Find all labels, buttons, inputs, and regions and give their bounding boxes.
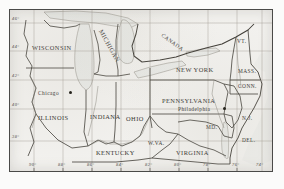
- water-bodies: [44, 11, 273, 166]
- border-vermont-newhampshire: [248, 30, 251, 64]
- atlantic-ocean: [242, 50, 273, 166]
- map-frame-border: 46° 44° 42° 40° 38° 90° 88° 86° 84° 82° …: [9, 9, 273, 172]
- river-ohio: [88, 116, 150, 146]
- border-pennsylvania-newyork: [150, 80, 224, 84]
- border-ohio-pennsylvania: [150, 68, 152, 128]
- border-illinois-indiana: [84, 90, 88, 146]
- border-indiana-ohio: [114, 82, 116, 142]
- map-canvas: 46° 44° 42° 40° 38° 90° 88° 86° 84° 82° …: [10, 10, 272, 171]
- map-vector-layer: [10, 10, 273, 172]
- border-ohio-westvirginia: [132, 116, 150, 142]
- border-virginia-south: [152, 158, 230, 164]
- lake-erie: [134, 61, 186, 78]
- frame-ticks: [34, 168, 237, 172]
- border-kentucky-south: [72, 158, 152, 162]
- map-figure: 46° 44° 42° 40° 38° 90° 88° 86° 84° 82° …: [0, 0, 284, 189]
- river-susquehanna: [212, 80, 224, 128]
- coast-michigan-lower: [94, 30, 100, 74]
- graticule-lines: [10, 10, 273, 172]
- river-wabash: [88, 86, 98, 136]
- border-maryland-virginia: [178, 120, 224, 136]
- border-newyork-vermont: [230, 37, 236, 80]
- border-michigan-ohio: [94, 74, 130, 76]
- border-kentucky-virginia: [152, 134, 178, 158]
- chesapeake-bay: [222, 122, 229, 159]
- border-illinois-south: [36, 114, 88, 148]
